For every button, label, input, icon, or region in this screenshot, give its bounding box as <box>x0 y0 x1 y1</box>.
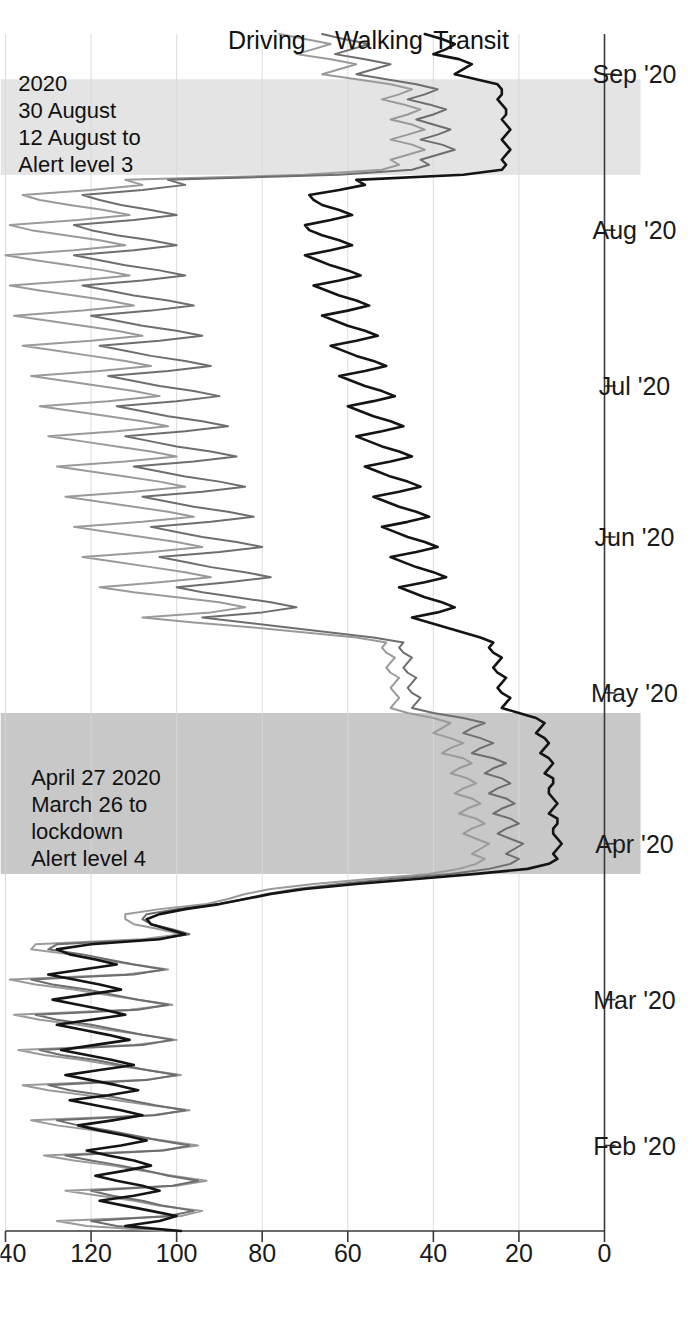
month-tick-label: Apr '20 <box>595 830 673 858</box>
value-tick-label: 0 <box>597 1239 611 1267</box>
series-label-transit: Transit <box>433 26 509 54</box>
series-line-driving <box>5 34 488 1231</box>
chart-svg: 020406080100120140Feb '20Mar '20Apr '20M… <box>0 0 699 1324</box>
month-tick-label: May '20 <box>591 679 678 707</box>
value-tick-label: 120 <box>70 1239 112 1267</box>
month-tick-label: Jul '20 <box>598 372 669 400</box>
annotation-line: Alert level 3 <box>18 152 133 177</box>
annotation-line: April 27 2020 <box>31 765 161 790</box>
value-tick-label: 80 <box>248 1239 276 1267</box>
month-tick-label: Mar '20 <box>593 986 676 1014</box>
annotation-line: Alert level 4 <box>31 846 146 871</box>
series-label-walking: Walking <box>334 26 422 54</box>
value-tick-label: 60 <box>333 1239 361 1267</box>
series-line-walking <box>31 34 523 1231</box>
month-tick-label: Feb '20 <box>593 1132 676 1160</box>
value-tick-label: 100 <box>155 1239 197 1267</box>
value-tick-label: 40 <box>419 1239 447 1267</box>
annotation-line: March 26 to <box>31 792 147 817</box>
month-tick-label: Sep '20 <box>592 60 676 88</box>
rotated-plot-container: 020406080100120140Feb '20Mar '20Apr '20M… <box>0 0 699 1324</box>
series-label-driving: Driving <box>227 26 305 54</box>
annotation-line: lockdown <box>31 819 123 844</box>
annotation-line: 30 August <box>18 98 116 123</box>
annotation-line: 2020 <box>18 71 67 96</box>
month-tick-label: Jun '20 <box>594 523 674 551</box>
month-tick-label: Aug '20 <box>592 216 676 244</box>
mobility-trends-chart: 020406080100120140Feb '20Mar '20Apr '20M… <box>0 0 699 1324</box>
value-tick-label: 140 <box>0 1239 26 1267</box>
annotation-line: 12 August to <box>18 125 140 150</box>
value-tick-label: 20 <box>505 1239 533 1267</box>
